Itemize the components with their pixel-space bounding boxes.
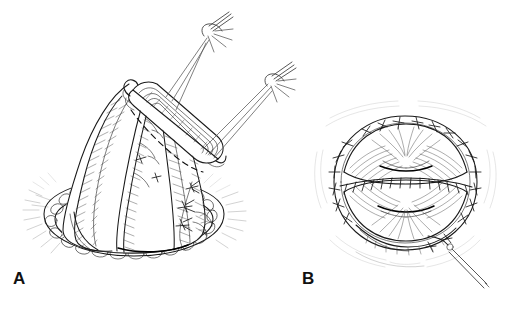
surgical-illustration-svg: [0, 0, 514, 309]
figure-root: A B: [0, 0, 514, 309]
panel-label-a: A: [13, 270, 25, 287]
panel-label-b: B: [302, 270, 314, 287]
